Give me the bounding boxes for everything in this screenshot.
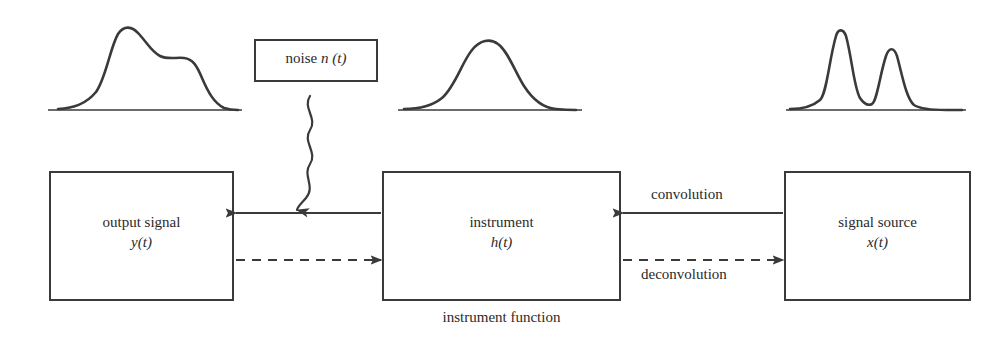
instrument-title: instrument bbox=[383, 212, 620, 232]
deconvolution-label: deconvolution bbox=[641, 266, 727, 283]
output-signal-waveform bbox=[48, 28, 242, 110]
noise-box-label: noise n (t) bbox=[255, 50, 377, 67]
output-signal-box-label: output signal y(t) bbox=[50, 212, 233, 253]
source-signal-waveform bbox=[786, 30, 966, 110]
instrument-box-label: instrument h(t) bbox=[383, 212, 620, 253]
noise-label-text: noise bbox=[286, 50, 318, 66]
diagram-canvas: noise n (t) output signal y(t) instrumen… bbox=[0, 0, 1001, 342]
instrument-function-caption: instrument function bbox=[383, 307, 620, 327]
output-signal-function: y(t) bbox=[50, 232, 233, 252]
wavy-arrow-icon bbox=[297, 96, 312, 210]
signal-source-function: x(t) bbox=[785, 232, 970, 252]
noise-label-function: n (t) bbox=[321, 50, 346, 66]
instrument-function-waveform bbox=[398, 41, 582, 110]
instrument-function-symbol: h(t) bbox=[383, 232, 620, 252]
signal-source-box-label: signal source x(t) bbox=[785, 212, 970, 253]
convolution-label: convolution bbox=[651, 186, 723, 203]
output-signal-title: output signal bbox=[50, 212, 233, 232]
diagram-vector-layer bbox=[0, 0, 1001, 342]
signal-source-title: signal source bbox=[785, 212, 970, 232]
